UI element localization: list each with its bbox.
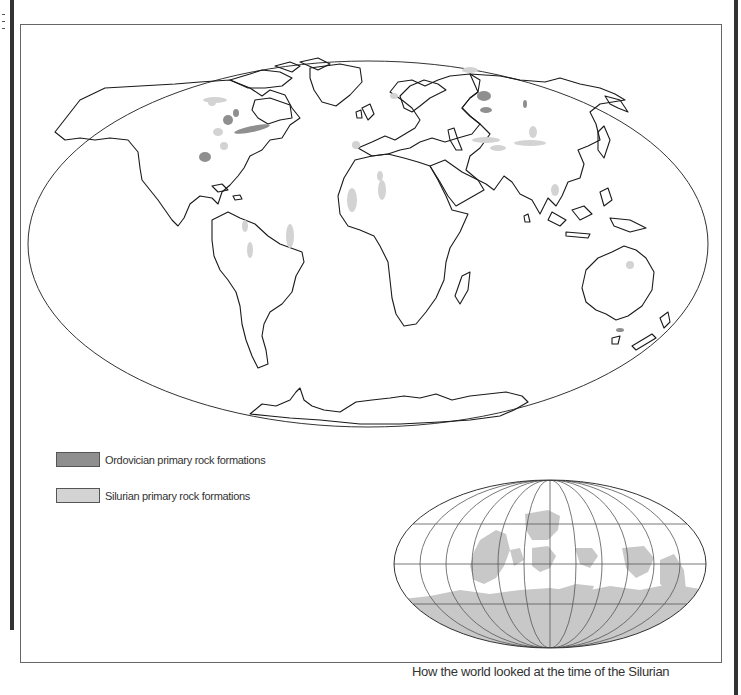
inset-caption: How the world looked at the time of the …: [412, 664, 669, 679]
silurian-landmasses: [393, 510, 706, 660]
silurian-inset-map: [0, 0, 741, 695]
